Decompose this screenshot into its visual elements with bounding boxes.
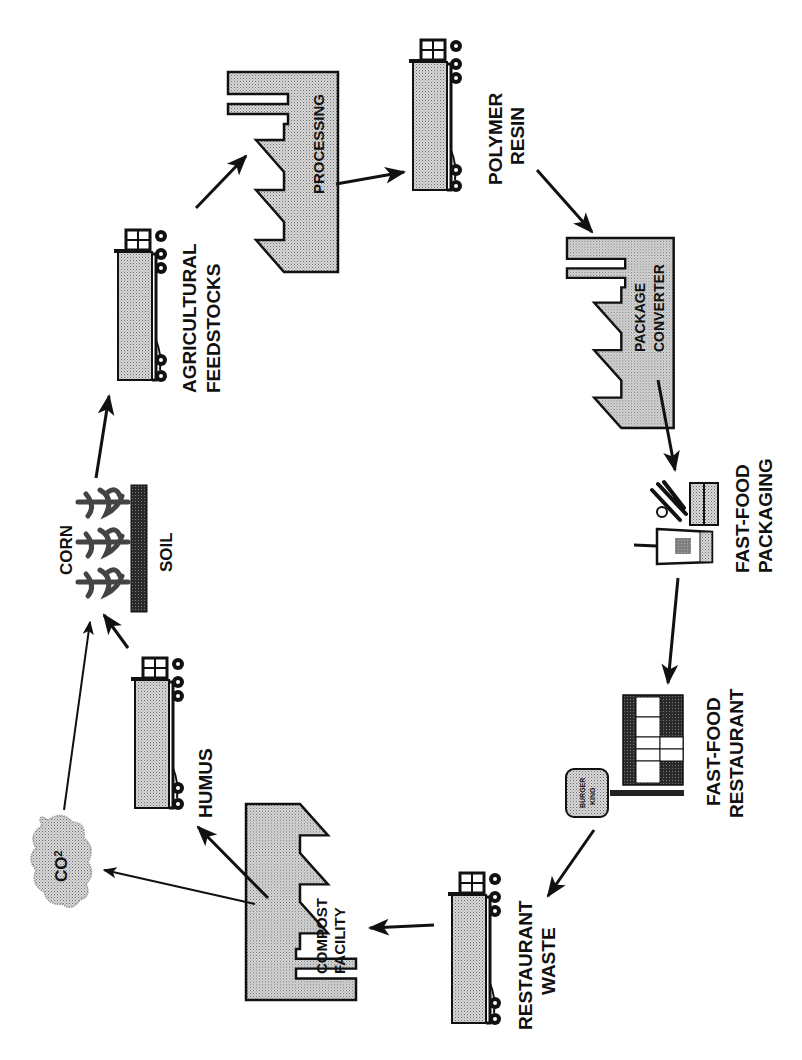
- truck-icon: [114, 230, 167, 382]
- arrow-co2-to-corn: [64, 622, 90, 810]
- polymer-label: POLYMER: [485, 93, 506, 185]
- restaurant-building-icon: [610, 695, 684, 796]
- restaurant-waste-label-2: WASTE: [538, 927, 559, 995]
- arrow-compost-to-co2: [104, 870, 255, 904]
- restaurant-label-2: RESTAURANT: [726, 688, 747, 818]
- truck-icon: [409, 40, 462, 192]
- svg-text:KING: KING: [589, 787, 596, 805]
- package-label: PACKAGE: [632, 283, 648, 352]
- soil-label: SOIL: [157, 532, 176, 572]
- resin-label: RESIN: [507, 107, 528, 165]
- compost-lifecycle-diagram: CORN SOIL AGRICULTURAL FEEDSTOCKS PROCES…: [0, 0, 802, 1060]
- arrow-packaging-to-restaurant: [668, 578, 678, 683]
- restaurant-label-1: FAST-FOOD: [703, 697, 724, 806]
- arrow-resin-to-converter: [537, 170, 592, 232]
- truck-icon: [131, 658, 184, 810]
- corn-label: CORN: [57, 525, 76, 575]
- corn-plants-icon: [78, 490, 128, 596]
- svg-text:BURGER: BURGER: [579, 778, 586, 808]
- soil-bar-icon: [131, 485, 147, 612]
- arrow-feedstocks-to-processing: [196, 156, 246, 208]
- arrow-waste-to-compost: [370, 925, 434, 928]
- arrow-humus-to-corn: [104, 615, 128, 648]
- truck-icon: [448, 873, 501, 1025]
- converter-label: CONVERTER: [651, 264, 667, 352]
- arrow-corn-to-feedstocks: [96, 396, 109, 478]
- facility-label: FACILITY: [331, 907, 348, 974]
- processing-label: PROCESSING: [310, 94, 327, 194]
- arrow-restaurant-to-waste: [548, 830, 594, 896]
- burger-king-sign-icon: BURGER KING: [566, 769, 608, 817]
- packaging-label-2: PACKAGING: [755, 458, 776, 573]
- agricultural-label: AGRICULTURAL: [179, 243, 200, 393]
- cup-cutlery-box-icon: [634, 482, 718, 564]
- feedstocks-label: FEEDSTOCKS: [203, 263, 224, 393]
- restaurant-waste-label-1: RESTAURANT: [515, 900, 536, 1030]
- compost-label: COMPOST: [313, 898, 330, 974]
- cloud-icon: CO2: [31, 815, 92, 907]
- packaging-label-1: FAST-FOOD: [732, 464, 753, 573]
- arrow-processing-to-resin: [336, 172, 404, 184]
- humus-label: HUMUS: [195, 748, 216, 818]
